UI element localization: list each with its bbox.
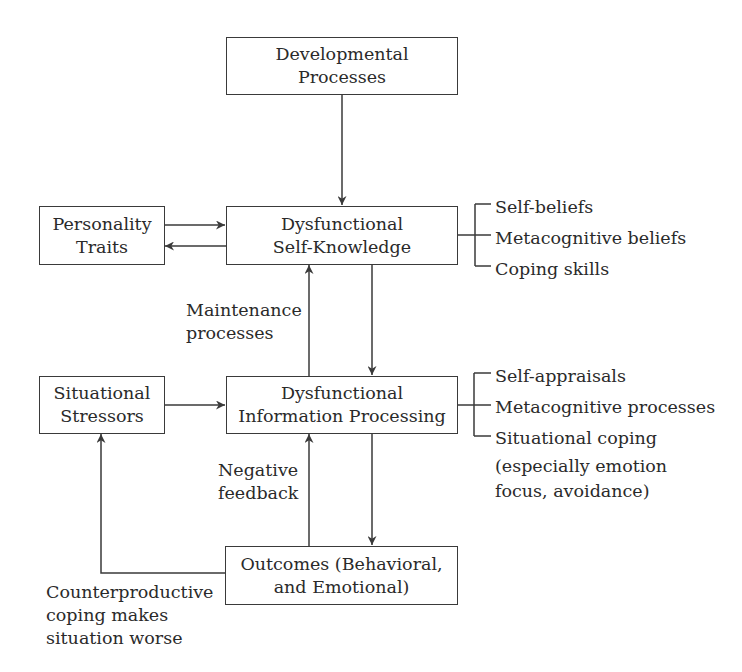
box-label-line: Traits <box>76 236 128 259</box>
list-info-processing-components: Self-appraisals Metacognitive processes … <box>495 361 715 504</box>
box-label-line: Dysfunctional <box>281 382 403 405</box>
list-item-metacognitive-beliefs: Metacognitive beliefs <box>495 223 686 254</box>
list-item-metacognitive-processes: Metacognitive processes <box>495 392 715 423</box>
box-label-line: Personality <box>52 213 151 236</box>
box-label-line: Processes <box>298 66 386 89</box>
list-item-situational-coping-detail: (especially emotion <box>495 454 715 479</box>
box-personality-traits: Personality Traits <box>39 206 165 265</box>
bracket-self-knowledge <box>457 204 491 266</box>
edge-label-line: coping makes <box>46 604 213 627</box>
list-item-coping-skills: Coping skills <box>495 254 686 285</box>
box-label-line: Information Processing <box>238 405 445 428</box>
box-situational-stressors: Situational Stressors <box>39 376 165 434</box>
edge-label-line: situation worse <box>46 627 213 650</box>
box-label-line: Dysfunctional <box>281 213 403 236</box>
edge-label-negative-feedback: Negative feedback <box>218 459 298 505</box>
list-item-situational-coping-detail: focus, avoidance) <box>495 479 715 504</box>
edge-label-line: Maintenance <box>186 299 302 322</box>
list-item-self-beliefs: Self-beliefs <box>495 192 686 223</box>
list-self-knowledge-components: Self-beliefs Metacognitive beliefs Copin… <box>495 192 686 285</box>
box-outcomes: Outcomes (Behavioral, and Emotional) <box>225 546 458 605</box>
box-label-line: Self-Knowledge <box>273 236 411 259</box>
box-label-line: Stressors <box>60 405 144 428</box>
edge-label-maintenance-processes: Maintenance processes <box>186 299 302 345</box>
box-developmental-processes: Developmental Processes <box>226 37 458 95</box>
edge-label-line: processes <box>186 322 302 345</box>
diagram-canvas: Developmental Processes Personality Trai… <box>0 0 742 672</box>
arrow-counterproductive-to-stressors <box>101 434 225 573</box>
box-label-line: Outcomes (Behavioral, <box>240 553 442 576</box>
list-item-situational-coping: Situational coping <box>495 423 715 454</box>
box-label-line: Situational <box>54 382 151 405</box>
edge-label-line: feedback <box>218 482 298 505</box>
bracket-info-processing <box>457 373 491 436</box>
box-label-line: and Emotional) <box>274 576 410 599</box>
list-item-self-appraisals: Self-appraisals <box>495 361 715 392</box>
box-label-line: Developmental <box>275 43 408 66</box>
box-dysfunctional-information-processing: Dysfunctional Information Processing <box>226 376 458 434</box>
box-dysfunctional-self-knowledge: Dysfunctional Self-Knowledge <box>226 206 458 265</box>
edge-label-line: Counterproductive <box>46 581 213 604</box>
edge-label-line: Negative <box>218 459 298 482</box>
edge-label-counterproductive-coping: Counterproductive coping makes situation… <box>46 581 213 650</box>
